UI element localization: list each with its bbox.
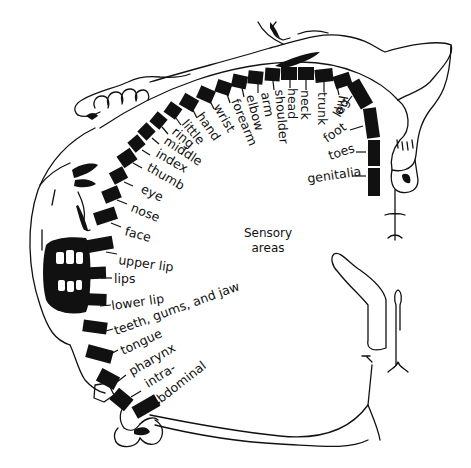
arc-segment-lower-lip (81, 293, 106, 306)
arc-segment-teeth-gums-and-jaw (82, 319, 107, 334)
arc-segment-pharynx (96, 368, 120, 390)
tick-ring (162, 127, 168, 134)
arc-segment-elbow (231, 74, 248, 90)
center-label-line1: Sensory (244, 226, 292, 240)
label-nose: nose (129, 200, 163, 225)
label-hip: hip (333, 94, 351, 116)
tick-middle (152, 138, 159, 144)
label-face: face (123, 223, 153, 244)
arc-segment-upper-lip (85, 236, 114, 253)
tick-index (142, 150, 150, 155)
arc-segment-genitalia (368, 168, 380, 196)
center-label-line2: areas (251, 241, 284, 255)
tick-thumb (133, 163, 142, 168)
diagram-svg: genitaliatoesfootleghiptrunkneckheadshou… (0, 0, 471, 468)
arc-segment-head (281, 67, 297, 80)
arc-segment-face (93, 206, 118, 225)
tick-nose (117, 200, 127, 204)
label-genitalia: genitalia (306, 164, 362, 186)
arc-segment-trunk (314, 68, 333, 83)
arc-segment-arm (247, 70, 263, 84)
label-eye: eye (139, 181, 166, 204)
label-lips: lips (114, 271, 135, 286)
label-trunk: trunk (315, 92, 330, 126)
tick-face (111, 223, 121, 227)
arc-segment-shoulder (265, 67, 281, 81)
arc-segment-forearm (214, 79, 232, 96)
tick-intra (131, 391, 141, 397)
tick-eye (124, 182, 133, 186)
arc-segment-ring (149, 111, 167, 129)
homunculus-diagram: genitaliatoesfootleghiptrunkneckheadshou… (0, 0, 471, 468)
arc-segment-intra (109, 388, 133, 412)
tick-shoulder (273, 81, 274, 90)
tick-upper-lip (106, 252, 117, 254)
arc-segment-neck (298, 67, 314, 80)
arc-segment-foot (363, 107, 380, 139)
arc-segment-toes (368, 140, 380, 166)
tick-foot (350, 126, 363, 130)
